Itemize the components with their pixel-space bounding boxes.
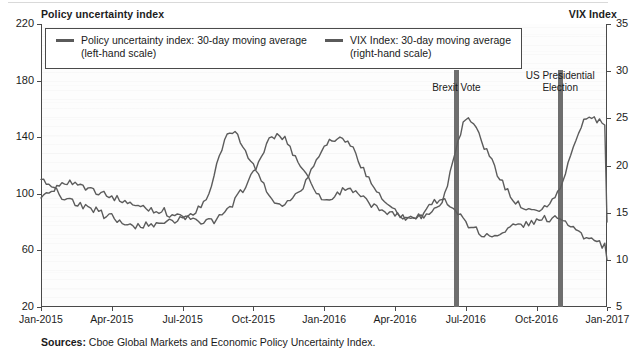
x-tick-mark-jan-2016: [324, 307, 325, 311]
legend-label-vix-index: VIX Index: 30-day moving average (right-…: [350, 34, 511, 60]
y-tick-label-left-180: 180: [0, 74, 34, 86]
y-tick-label-left-60: 60: [0, 243, 34, 255]
y-tick-label-right-30: 30: [616, 64, 628, 76]
y-tick-mark-left-60: [37, 250, 41, 251]
x-tick-mark-oct-2016: [537, 307, 538, 311]
x-tick-mark-jan-2017: [607, 307, 608, 311]
y-tick-mark-left-220: [37, 24, 41, 25]
legend-swatch-policy-uncertainty: [56, 39, 74, 42]
series-line-policy-uncertainty-index: [41, 117, 607, 224]
legend-label-line1: VIX Index: 30-day moving average: [350, 34, 511, 46]
y-tick-label-right-25: 25: [616, 111, 628, 123]
source-prefix: Sources:: [41, 336, 86, 348]
event-label-line1: Brexit Vote: [432, 82, 480, 93]
legend-label-line2: (left-hand scale): [81, 47, 156, 59]
y-tick-label-right-35: 35: [616, 17, 628, 29]
y-tick-mark-left-140: [37, 137, 41, 138]
source-note: Sources: Cboe Global Markets and Economi…: [41, 336, 375, 348]
x-tick-label-jul-2015: Jul-2015: [162, 313, 202, 325]
y-tick-label-right-5: 5: [616, 300, 622, 312]
y-tick-mark-right-20: [607, 166, 611, 167]
legend-label-line2: (right-hand scale): [350, 47, 432, 59]
y-tick-mark-right-15: [607, 213, 611, 214]
event-label-brexit-vote: Brexit Vote: [432, 82, 480, 94]
y-tick-label-right-15: 15: [616, 206, 628, 218]
y-tick-label-right-10: 10: [616, 253, 628, 265]
x-tick-label-jan-2016: Jan-2016: [302, 313, 346, 325]
x-tick-mark-apr-2015: [112, 307, 113, 311]
x-tick-label-apr-2016: Apr-2016: [373, 313, 416, 325]
y-tick-mark-right-10: [607, 260, 611, 261]
x-tick-label-jan-2015: Jan-2015: [19, 313, 63, 325]
x-tick-mark-jul-2016: [466, 307, 467, 311]
source-text: Cboe Global Markets and Economic Policy …: [89, 336, 376, 348]
y-tick-label-left-220: 220: [0, 17, 34, 29]
legend-label-line1: Policy uncertainty index: 30-day moving …: [81, 34, 307, 46]
series-line-vix-index: [41, 131, 607, 259]
right-axis-title: VIX Index: [569, 8, 617, 20]
y-tick-label-left-20: 20: [0, 300, 34, 312]
y-tick-mark-left-180: [37, 81, 41, 82]
x-tick-label-apr-2015: Apr-2015: [90, 313, 133, 325]
y-tick-mark-right-35: [607, 24, 611, 25]
x-tick-label-oct-2016: Oct-2016: [515, 313, 558, 325]
legend-entry-vix-index: VIX Index: 30-day moving average (right-…: [325, 34, 511, 68]
event-label-us-presidential-election: US PresidentialElection: [526, 70, 595, 93]
event-label-line1: US Presidential: [526, 70, 595, 81]
chart-legend: Policy uncertainty index: 30-day moving …: [45, 28, 522, 69]
y-tick-mark-left-100: [37, 194, 41, 195]
legend-entry-policy-uncertainty: Policy uncertainty index: 30-day moving …: [56, 34, 307, 68]
x-tick-label-oct-2015: Oct-2015: [232, 313, 275, 325]
legend-swatch-vix-index: [325, 39, 343, 42]
x-tick-mark-oct-2015: [253, 307, 254, 311]
x-tick-mark-jul-2015: [183, 307, 184, 311]
x-tick-label-jul-2016: Jul-2016: [446, 313, 486, 325]
scan-artifact-rule: [8, 2, 608, 3]
left-axis-title: Policy uncertainty index: [41, 8, 164, 20]
legend-label-policy-uncertainty: Policy uncertainty index: 30-day moving …: [81, 34, 307, 60]
y-tick-label-right-20: 20: [616, 159, 628, 171]
y-tick-mark-right-30: [607, 71, 611, 72]
y-tick-label-left-140: 140: [0, 130, 34, 142]
event-label-line2: Election: [542, 82, 578, 93]
y-tick-mark-right-25: [607, 118, 611, 119]
x-tick-mark-jan-2015: [41, 307, 42, 311]
y-tick-label-left-100: 100: [0, 187, 34, 199]
x-tick-mark-apr-2016: [395, 307, 396, 311]
x-tick-label-jan-2017: Jan-2017: [585, 313, 629, 325]
